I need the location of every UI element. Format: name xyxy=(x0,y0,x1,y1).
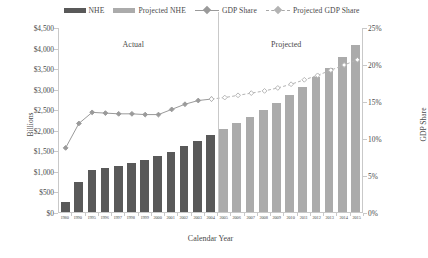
x-tick-label: 1997 xyxy=(111,215,124,220)
actual-projected-divider xyxy=(218,12,219,212)
legend-item-3: Projected GDP Share xyxy=(266,6,360,15)
legend-line-solid xyxy=(195,7,219,14)
legend-label: NHE xyxy=(89,6,105,15)
line-marker xyxy=(342,63,347,68)
chart-legend: NHEProjected NHEGDP ShareProjected GDP S… xyxy=(0,6,423,15)
x-axis-tick-labels: 1980199019951996199719981999200020012002… xyxy=(58,215,363,220)
x-tick-label: 2012 xyxy=(310,215,323,220)
legend-label: Projected NHE xyxy=(138,6,185,15)
legend-item-1: Projected NHE xyxy=(113,6,185,15)
right-tick-mark xyxy=(363,28,367,29)
line-marker xyxy=(169,107,174,112)
x-tick-label: 1990 xyxy=(72,215,85,220)
x-tick-label: 2000 xyxy=(151,215,164,220)
left-tick-label: $2,500 xyxy=(0,106,54,115)
line-marker xyxy=(302,77,307,82)
x-tick-mark xyxy=(217,213,218,216)
x-tick-mark xyxy=(230,213,231,216)
left-tick-label: $1,000 xyxy=(0,167,54,176)
line-marker xyxy=(289,82,294,87)
x-tick-label: 1996 xyxy=(98,215,111,220)
line-marker xyxy=(315,73,320,78)
x-tick-label: 2011 xyxy=(297,215,310,220)
x-tick-mark xyxy=(164,213,165,216)
line-marker xyxy=(236,93,241,98)
line-marker xyxy=(156,112,161,117)
right-tick-mark xyxy=(363,65,367,66)
x-tick-label: 2004 xyxy=(204,215,217,220)
x-tick-label: 1980 xyxy=(58,215,71,220)
x-tick-mark xyxy=(138,213,139,216)
x-tick-label: 2001 xyxy=(164,215,177,220)
left-tick-label: $4,000 xyxy=(0,44,54,53)
x-tick-mark xyxy=(310,213,311,216)
x-tick-label: 2003 xyxy=(191,215,204,220)
left-tick-mark xyxy=(54,90,58,91)
line-marker xyxy=(275,86,280,91)
left-tick-label: $0 xyxy=(0,209,54,218)
x-tick-mark xyxy=(283,213,284,216)
annotation-actual: Actual xyxy=(123,40,144,49)
line-path xyxy=(66,99,212,148)
x-tick-mark xyxy=(336,213,337,216)
legend-label: GDP Share xyxy=(222,6,257,15)
x-tick-label: 2008 xyxy=(257,215,270,220)
left-tick-mark xyxy=(54,151,58,152)
legend-swatch xyxy=(113,8,135,13)
right-tick-label: 25% xyxy=(368,24,408,33)
left-tick-mark xyxy=(54,110,58,111)
legend-line-dashed xyxy=(266,7,290,14)
x-tick-label: 2009 xyxy=(271,215,284,220)
x-tick-mark xyxy=(257,213,258,216)
x-tick-label: 2010 xyxy=(284,215,297,220)
legend-item-2: GDP Share xyxy=(195,6,257,15)
x-tick-mark xyxy=(151,213,152,216)
line-marker xyxy=(183,102,188,107)
right-axis-title: GDP Share xyxy=(419,85,428,165)
left-tick-mark xyxy=(54,172,58,173)
line-marker xyxy=(209,97,214,102)
right-tick-label: 20% xyxy=(368,61,408,70)
left-tick-mark xyxy=(54,28,58,29)
left-tick-mark xyxy=(54,192,58,193)
line-marker xyxy=(222,95,227,100)
x-tick-mark xyxy=(350,213,351,216)
x-tick-mark xyxy=(71,213,72,216)
x-tick-label: 2006 xyxy=(231,215,244,220)
right-tick-label: 10% xyxy=(368,135,408,144)
x-tick-mark xyxy=(270,213,271,216)
left-tick-mark xyxy=(54,49,58,50)
left-tick-label: $2,000 xyxy=(0,126,54,135)
x-tick-mark xyxy=(244,213,245,216)
x-tick-label: 2015 xyxy=(350,215,363,220)
right-tick-label: 5% xyxy=(368,172,408,181)
x-tick-mark xyxy=(98,213,99,216)
line-marker xyxy=(196,98,201,103)
x-tick-mark xyxy=(323,213,324,216)
x-tick-mark xyxy=(85,213,86,216)
line-marker xyxy=(262,88,267,93)
left-tick-label: $3,000 xyxy=(0,85,54,94)
left-tick-mark xyxy=(54,69,58,70)
legend-label: Projected GDP Share xyxy=(293,6,360,15)
x-axis-title: Calendar Year xyxy=(58,234,363,243)
line-path xyxy=(212,60,358,99)
x-tick-label: 1998 xyxy=(125,215,138,220)
right-tick-mark xyxy=(363,102,367,103)
right-tick-label: 0% xyxy=(368,209,408,218)
x-tick-label: 2007 xyxy=(244,215,257,220)
line-marker xyxy=(143,112,148,117)
left-tick-mark xyxy=(54,213,58,214)
line-marker xyxy=(355,57,360,62)
x-tick-mark xyxy=(124,213,125,216)
line-marker xyxy=(103,111,108,116)
plot-area: Actual Projected xyxy=(58,28,363,213)
x-tick-label: 2014 xyxy=(337,215,350,220)
line-marker xyxy=(63,145,68,150)
right-tick-mark xyxy=(363,176,367,177)
right-tick-label: 15% xyxy=(368,98,408,107)
right-tick-mark xyxy=(363,139,367,140)
legend-swatch xyxy=(64,8,86,13)
line-series-group xyxy=(59,28,364,213)
